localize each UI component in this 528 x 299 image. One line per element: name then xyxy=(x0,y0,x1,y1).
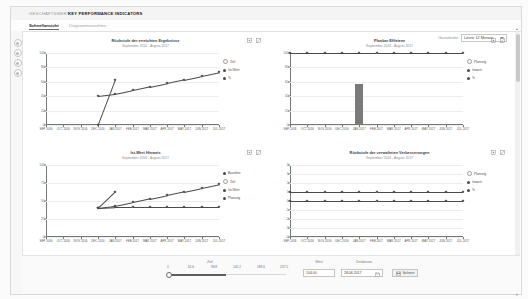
y-tick-label: 60 xyxy=(41,80,44,84)
y-tick-mark xyxy=(44,110,46,111)
line-segment xyxy=(325,201,342,202)
legend-marker-icon xyxy=(223,197,226,200)
calendar-icon[interactable] xyxy=(375,272,380,277)
chart-subtitle: September 2016 - August 2017 xyxy=(24,44,267,48)
y-tick-mark xyxy=(288,110,290,111)
x-tick-label: DEC 2016 xyxy=(335,127,348,131)
x-tick-label: NOV 2016 xyxy=(318,127,332,131)
chart-expand-icon[interactable] xyxy=(500,38,505,43)
data-point xyxy=(217,183,220,186)
chart-card-2: Ist-Wert HinweisSeptember 2016 - August … xyxy=(24,145,267,256)
x-tick-label: SEP 2016 xyxy=(284,239,297,243)
tab-diagrammansichten[interactable]: Diagrammansichten xyxy=(69,23,106,28)
legend-label: Baseline xyxy=(228,171,241,175)
info-icon[interactable] xyxy=(14,39,22,47)
y-tick-mark xyxy=(44,96,46,97)
y-tick-mark xyxy=(44,53,46,54)
x-tick-label: MAY 2017 xyxy=(422,127,435,131)
legend-item[interactable]: Planung xyxy=(467,59,507,64)
gridline xyxy=(290,219,463,220)
x-tick-label: MAY 2017 xyxy=(178,239,191,243)
legend-item[interactable]: Planung xyxy=(467,171,507,176)
line-segment xyxy=(377,201,394,202)
chart-card-0: Rückstufe der erreichten ErgebnisseSepte… xyxy=(24,33,267,144)
filter-icon[interactable] xyxy=(14,59,22,67)
y-tick-label: -1 xyxy=(286,208,289,212)
legend-marker-icon xyxy=(467,181,470,184)
x-tick-label: JUL 2017 xyxy=(213,239,225,243)
legend-marker-icon xyxy=(467,59,472,64)
chart-expand-icon[interactable] xyxy=(256,150,261,155)
save-button[interactable]: Sichern xyxy=(392,269,418,277)
legend-item[interactable]: % xyxy=(467,188,507,192)
chart-settings-icon[interactable] xyxy=(491,150,496,155)
chart-card-3: Rückstufe der verwalteten Verbesserungen… xyxy=(268,145,511,256)
legend-label: Istwert xyxy=(472,180,482,184)
chart-settings-icon[interactable] xyxy=(247,150,252,155)
x-tick-label: MAR 2017 xyxy=(143,127,157,131)
gridline xyxy=(290,67,463,68)
gridline xyxy=(290,82,463,83)
x-tick-label: FEB 2017 xyxy=(126,239,139,243)
gridline xyxy=(290,183,463,184)
settings-icon[interactable] xyxy=(14,69,22,77)
legend-item[interactable]: Ist-Wert xyxy=(223,68,263,72)
legend-item[interactable]: Ziel xyxy=(223,59,263,64)
gridline xyxy=(290,111,463,112)
legend-item[interactable]: Istwert xyxy=(467,68,507,72)
legend-label: Ziel xyxy=(230,60,235,64)
chart-legend: Planung Istwert % xyxy=(467,59,507,84)
legend-item[interactable]: Ist-Wert xyxy=(223,188,263,192)
y-tick-mark xyxy=(288,67,290,68)
edit-icon[interactable] xyxy=(14,49,22,57)
y-tick-mark xyxy=(44,67,46,68)
scroll-up-icon[interactable] xyxy=(516,28,518,30)
y-tick-label: 4 xyxy=(287,163,289,167)
chart-expand-icon[interactable] xyxy=(256,38,261,43)
line-segment xyxy=(150,207,167,208)
zeitdatum-input[interactable]: 28.06.2017 xyxy=(341,269,383,277)
legend-label: Planung xyxy=(228,196,240,200)
legend-item[interactable]: % xyxy=(467,76,507,80)
legend-marker-icon xyxy=(223,179,228,184)
line-segment xyxy=(428,192,445,193)
x-tick-label: SEP 2016 xyxy=(284,127,297,131)
slider-knob[interactable] xyxy=(166,272,172,278)
y-tick-mark xyxy=(44,219,46,220)
chart-subtitle: September 2016 - August 2017 xyxy=(24,156,267,160)
chart-settings-icon[interactable] xyxy=(491,38,496,43)
line-segment xyxy=(325,53,342,54)
bar xyxy=(355,84,363,125)
line-segment xyxy=(115,90,132,94)
zeitdatum-label: Zeitdatum xyxy=(344,260,384,264)
x-tick-label: NOV 2016 xyxy=(74,239,88,243)
x-tick-label: MAR 2017 xyxy=(387,239,401,243)
legend-marker-icon xyxy=(467,77,470,80)
y-tick-label: 3 xyxy=(287,172,289,176)
legend-item[interactable]: % xyxy=(223,76,263,80)
breadcrumb-parent[interactable]: GESCHÄFTSWERT xyxy=(29,11,69,16)
y-tick-mark xyxy=(44,201,46,202)
wert-input[interactable]: 104.00 xyxy=(303,269,335,277)
tab-schnellansicht[interactable]: Schnellansicht xyxy=(29,23,59,30)
legend-item[interactable]: Istwert xyxy=(467,180,507,184)
legend-item[interactable]: Planung xyxy=(223,196,263,200)
legend-marker-icon xyxy=(467,189,470,192)
save-disk-icon xyxy=(396,271,401,276)
chart-settings-icon[interactable] xyxy=(247,38,252,43)
line-segment xyxy=(133,207,150,208)
data-point xyxy=(461,190,464,193)
chart-legend: Baseline Ziel Ist-Wert Planung xyxy=(223,171,263,204)
chart-subtitle: September 2016 - August 2017 xyxy=(268,156,511,160)
legend-item[interactable]: Ziel xyxy=(223,179,263,184)
x-tick-label: FEB 2017 xyxy=(370,239,383,243)
scroll-down-icon[interactable] xyxy=(516,294,518,296)
line-segment xyxy=(98,80,116,126)
x-tick-label: OCT 2016 xyxy=(301,127,314,131)
legend-item[interactable]: Baseline xyxy=(223,171,263,175)
chart-expand-icon[interactable] xyxy=(500,150,505,155)
scrollbar-thumb[interactable] xyxy=(516,34,520,82)
vertical-scrollbar[interactable] xyxy=(515,32,520,292)
chart-toolbar xyxy=(247,150,261,155)
legend-marker-icon xyxy=(467,171,472,176)
